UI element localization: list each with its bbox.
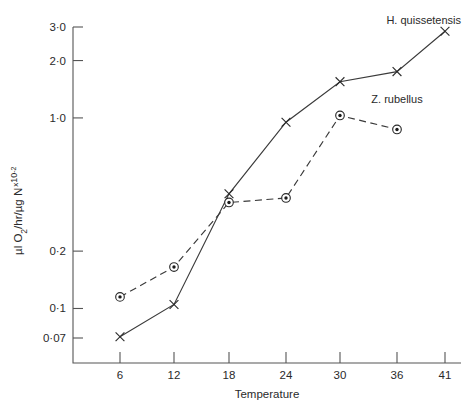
y-axis-title: µl O2/hr/µg Nx10-2: [9, 166, 29, 255]
y-tick-label: 0·07: [43, 332, 66, 344]
chart-figure: 3·02·01·00·20·10·07 6121824303641 µl O2/…: [0, 0, 473, 416]
series-markers: [116, 27, 450, 341]
data-point-marker-x: [441, 27, 450, 36]
x-tick-label: 41: [439, 369, 452, 381]
x-tick-label: 24: [280, 369, 293, 381]
y-tick-label: 1·0: [49, 112, 66, 124]
series-annotation-label: H. quissetensis: [386, 14, 461, 26]
oxygen-consumption-line-chart: 3·02·01·00·20·10·07 6121824303641 µl O2/…: [0, 0, 473, 416]
data-point-marker-x: [225, 189, 234, 198]
x-axis-ticks: 6121824303641: [117, 352, 452, 381]
y-axis-title-mid: /hr/µg N: [12, 188, 24, 229]
x-tick-label: 36: [391, 369, 404, 381]
x-tick-label: 6: [117, 369, 123, 381]
y-axis-ticks: 3·02·01·00·20·10·07: [43, 21, 83, 344]
data-point-marker-circle-dot: [225, 198, 234, 207]
axis-frame: [73, 27, 461, 363]
series-lines: [120, 31, 445, 337]
x-axis-title: Temperature: [235, 388, 300, 400]
y-axis-title-text: µl O2/hr/µg Nx10-2: [9, 166, 29, 255]
series-annotation-label: Z. rubellus: [371, 93, 423, 105]
y-tick-label: 0·1: [49, 302, 66, 314]
data-point-marker-x: [116, 332, 125, 341]
data-point-marker-circle-dot: [336, 111, 345, 120]
data-point-marker-circle-dot: [282, 194, 291, 203]
data-point-marker-circle-dot: [116, 293, 125, 302]
y-tick-label: 0·2: [49, 245, 66, 257]
y-axis-title-main: µl O: [12, 234, 24, 255]
y-axis-title-supexp: 10: [9, 173, 19, 183]
series-line-2: [120, 116, 397, 297]
axes: [73, 27, 461, 363]
x-tick-label: 12: [168, 369, 181, 381]
series-line-1: [120, 31, 445, 337]
data-point-marker-circle-dot: [170, 263, 179, 272]
y-axis-title-suppower: -2: [10, 166, 17, 172]
y-tick-label: 2·0: [49, 55, 66, 67]
x-tick-label: 30: [334, 369, 347, 381]
data-point-marker-x: [170, 300, 179, 309]
x-tick-label: 18: [223, 369, 236, 381]
data-point-marker-x: [282, 118, 291, 127]
y-tick-label: 3·0: [49, 21, 66, 33]
data-point-marker-circle-dot: [393, 125, 402, 134]
